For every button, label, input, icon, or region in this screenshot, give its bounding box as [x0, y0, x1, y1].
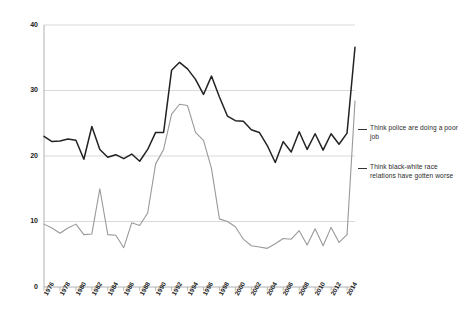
legend-entry-race-relations[interactable]: Think black-white race relations have go… — [358, 163, 458, 180]
gridlines — [44, 25, 355, 222]
y-tick-label: 40 — [16, 21, 38, 28]
legend-entry-police[interactable]: Think police are doing a poor job — [358, 124, 458, 141]
y-tick-label: 10 — [16, 217, 38, 224]
legend-label-police: Think police are doing a poor job — [370, 124, 458, 141]
series-lines — [44, 47, 355, 248]
legend-line-swatch-police — [358, 129, 367, 130]
line-chart: 010203040 197619781980198219841986198819… — [0, 0, 458, 326]
y-tick-label: 0 — [16, 283, 38, 290]
legend-line-swatch-race-relations — [358, 168, 367, 169]
y-tick-label: 20 — [16, 152, 38, 159]
legend-label-race-relations: Think black-white race relations have go… — [370, 163, 458, 180]
y-tick-label: 30 — [16, 86, 38, 93]
